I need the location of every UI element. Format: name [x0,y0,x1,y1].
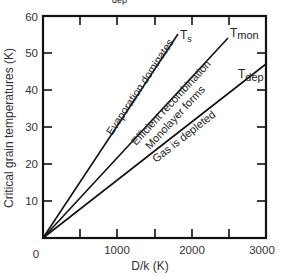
y-tick-label-20: 20 [25,158,38,170]
top-truncated-text: dep [112,0,127,5]
x-tick-label-0: 0 [33,248,39,260]
y-tick-label-60: 60 [25,11,38,23]
label-t-s: Ts [180,28,192,44]
annotation-recombination: Efficient recombination [129,58,213,148]
chart-canvas: dep 0 1000 2000 3000 10 20 30 40 50 60 [0,0,284,278]
x-tick-label-3000: 3000 [249,244,275,256]
x-tick-label-2000: 2000 [179,244,205,256]
label-t-mon: Tmon [230,26,259,41]
y-axis-label: Critical grain temperatures (K) [2,48,16,208]
x-axis-label: D/k (K) [131,259,168,273]
x-tick-label-1000: 1000 [104,244,130,256]
y-tick-label-50: 50 [25,47,38,59]
y-tick-label-40: 40 [25,84,38,96]
y-tick-label-10: 10 [25,195,38,207]
y-tick-label-30: 30 [25,121,38,133]
